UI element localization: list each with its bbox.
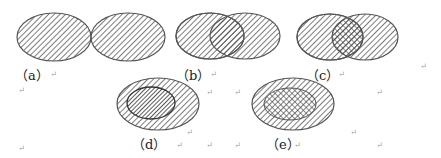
figure-d [117, 78, 199, 130]
figure-b [176, 13, 280, 59]
figure-a [17, 13, 165, 61]
inner-set-ellipse [264, 88, 316, 120]
return-mark-icon: ↵ [420, 62, 427, 71]
figure-label-a: （a） [15, 65, 49, 84]
figure-label-b: （b） [176, 65, 210, 84]
return-mark-icon: ↵ [18, 144, 25, 153]
return-mark-icon: ↵ [338, 70, 345, 79]
return-mark-icon: ↵ [234, 88, 241, 97]
return-mark-icon: ↵ [18, 86, 25, 95]
figure-label-c: （c） [306, 65, 339, 84]
return-mark-icon: ↵ [210, 70, 217, 79]
return-mark-icon: ↵ [50, 70, 57, 79]
set-ellipse-right [91, 13, 165, 61]
set-ellipse-left [17, 13, 91, 61]
venn-diagrams [0, 0, 441, 158]
return-mark-icon: ↵ [376, 88, 383, 97]
return-mark-icon: ↵ [206, 141, 213, 150]
return-mark-icon: ↵ [294, 141, 301, 150]
return-mark-icon: ↵ [376, 141, 383, 150]
figure-c [297, 14, 398, 60]
return-mark-icon: ↵ [186, 128, 193, 137]
set-ellipse-right [210, 13, 280, 59]
return-mark-icon: ↵ [350, 128, 357, 137]
return-mark-icon: ↵ [176, 141, 183, 150]
figure-e [252, 78, 334, 130]
figure-label-d: （d） [132, 134, 166, 153]
return-mark-icon: ↵ [234, 141, 241, 150]
return-mark-icon: ↵ [206, 88, 213, 97]
inner-set-ellipse-hatch [127, 87, 175, 119]
